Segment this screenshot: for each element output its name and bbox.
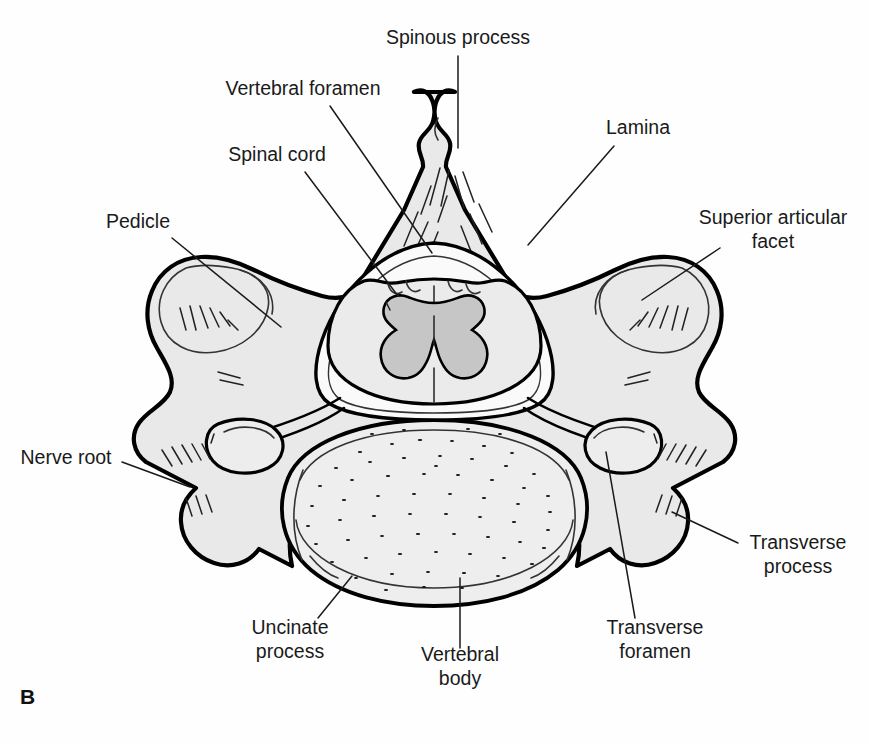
label-spinal-cord: Spinal cord [228, 143, 326, 165]
label-line: Superior articular [699, 206, 848, 228]
label-line: Vertebral foramen [225, 77, 380, 99]
label-line: process [256, 640, 325, 662]
spinal-cord-group [328, 279, 541, 404]
label-line: Lamina [606, 116, 670, 138]
label-line: process [764, 555, 833, 577]
label-line: Transverse [750, 531, 847, 553]
label-line: body [439, 667, 482, 689]
label-line: Transverse [607, 616, 704, 638]
label-line: Nerve root [20, 446, 112, 468]
label-line: facet [752, 230, 795, 252]
panel-letter: B [20, 685, 35, 708]
label-line: foramen [619, 640, 691, 662]
label-line: Pedicle [106, 210, 170, 232]
label-line: Spinal cord [228, 143, 326, 165]
label-line: Uncinate [252, 616, 329, 638]
label-pedicle: Pedicle [106, 210, 170, 232]
label-vertebral-foramen: Vertebral foramen [225, 77, 380, 99]
cervical-vertebra-diagram: Spinous processVertebral foramenSpinal c… [0, 0, 869, 744]
label-line: Vertebral [421, 643, 499, 665]
figure-canvas: Spinous processVertebral foramenSpinal c… [0, 0, 869, 744]
label-line: Spinous process [386, 26, 530, 48]
label-lamina: Lamina [606, 116, 670, 138]
vertebral-body-surface [282, 420, 587, 606]
label-nerve-root: Nerve root [20, 446, 112, 468]
label-spinous-process: Spinous process [386, 26, 530, 48]
